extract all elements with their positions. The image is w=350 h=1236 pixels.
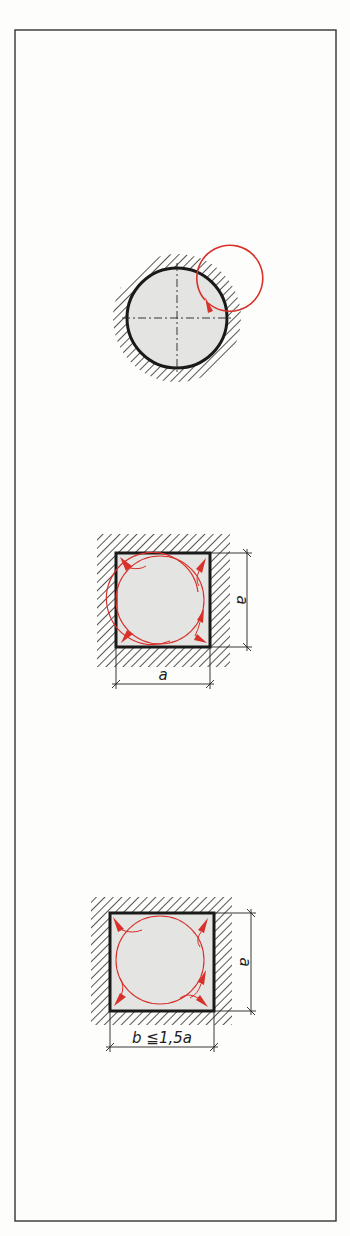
dimension-label-a-horizontal: a — [158, 666, 167, 684]
dimension-label-b: b ≦1,5a — [132, 1029, 192, 1047]
diagram-canvas: a a a — [0, 0, 350, 1236]
circular-section — [102, 233, 263, 404]
dimension-label-a-vertical: a — [236, 957, 254, 966]
dimension-label-a-vertical: a — [233, 595, 251, 604]
duct-interior — [110, 913, 214, 1011]
square-section: a a — [97, 534, 252, 689]
rectangular-section: a b ≦1,5a — [91, 897, 256, 1052]
